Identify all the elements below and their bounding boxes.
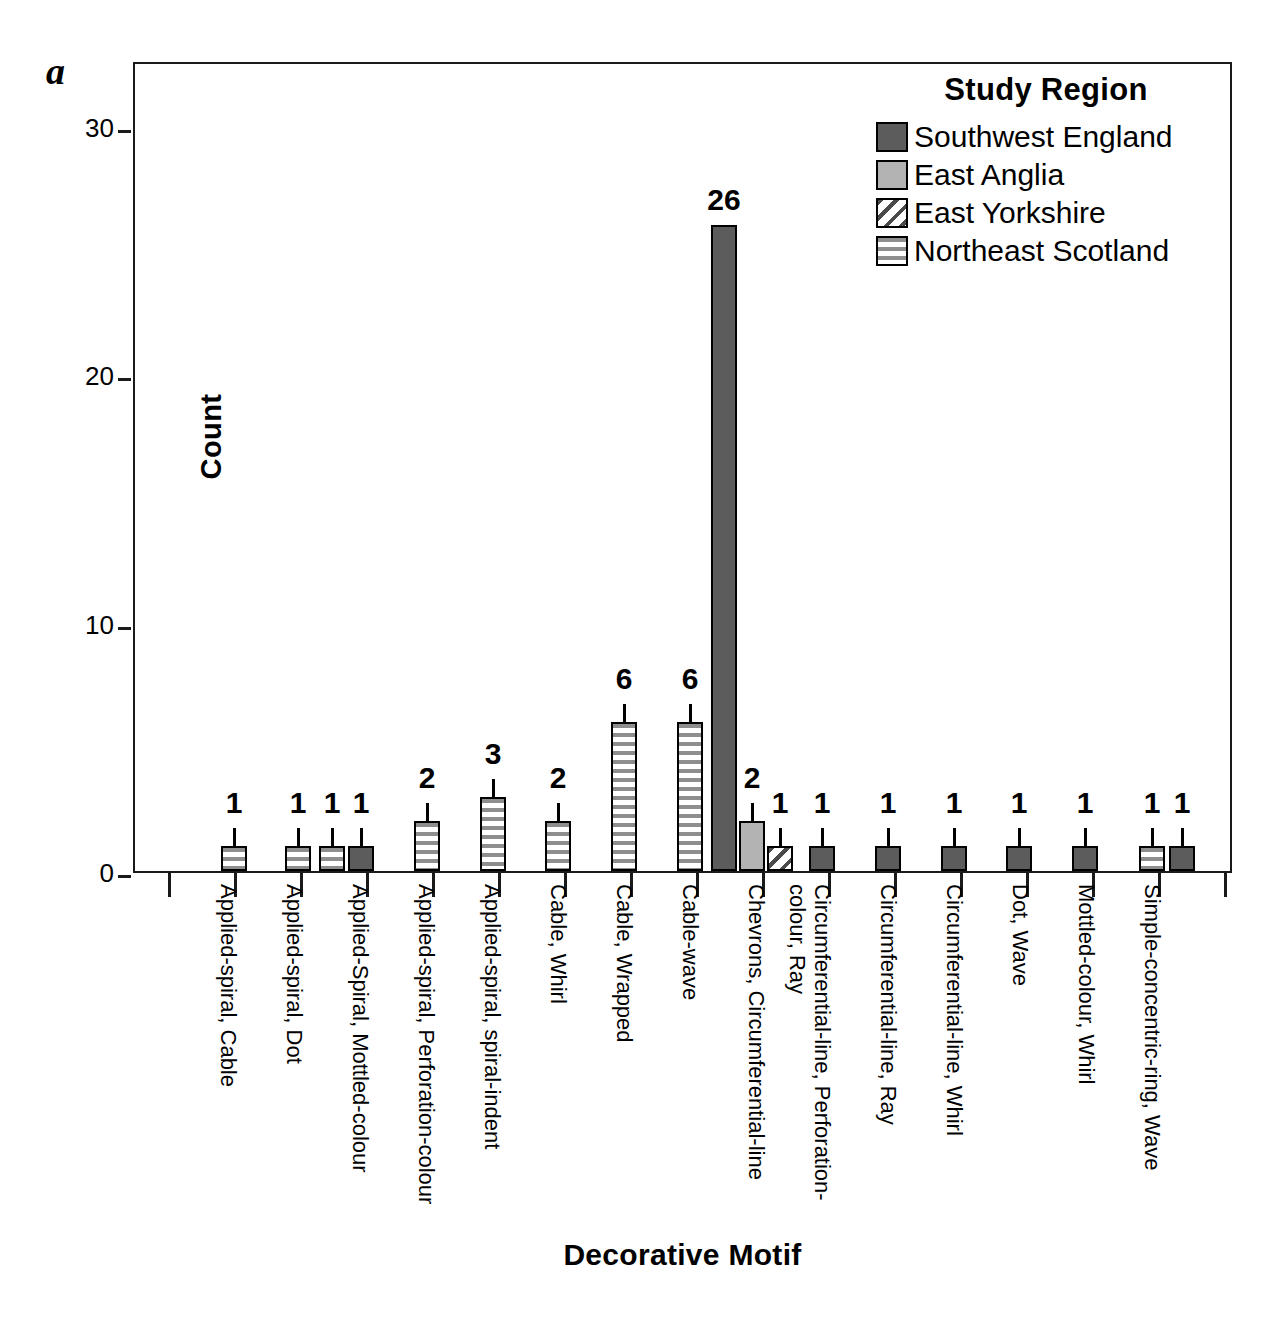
bar-cap-tick xyxy=(1084,828,1087,848)
legend-swatch-icon xyxy=(876,236,908,266)
x-axis-label-3: Applied-spiral, Perforation-colour xyxy=(414,884,439,1204)
bar-cap-tick xyxy=(751,803,754,823)
bar xyxy=(414,821,440,871)
bar-cap-tick xyxy=(623,704,626,724)
bar-value-label: 3 xyxy=(468,737,518,771)
bar xyxy=(221,846,247,871)
bar-cap-tick xyxy=(492,779,495,799)
bar xyxy=(480,797,506,872)
bar-cap-tick xyxy=(1181,828,1184,848)
legend-item-2[interactable]: East Yorkshire xyxy=(876,194,1216,232)
panel-letter: a xyxy=(46,52,65,90)
y-tick-20: 20 xyxy=(91,378,131,379)
x-tick-0 xyxy=(168,871,171,897)
x-axis-label-12: Dot, Wave xyxy=(1008,884,1033,986)
bar xyxy=(739,821,765,871)
y-tick-10: 10 xyxy=(91,627,131,628)
bar xyxy=(1072,846,1098,871)
x-axis-label-10: Circumferential-line, Ray xyxy=(876,884,901,1125)
y-tick-line xyxy=(118,627,131,630)
y-tick-0: 0 xyxy=(91,875,131,876)
bar xyxy=(767,846,793,871)
y-tick-30: 30 xyxy=(91,130,131,131)
x-axis-label-9: Circumferential-line, Perforation- colou… xyxy=(785,884,835,1201)
bar xyxy=(611,722,637,871)
bar-value-label: 1 xyxy=(336,786,386,820)
bar xyxy=(875,846,901,871)
legend-items: Southwest EnglandEast AngliaEast Yorkshi… xyxy=(876,118,1216,270)
bar-cap-tick xyxy=(557,803,560,823)
bar xyxy=(348,846,374,871)
bar-value-label: 6 xyxy=(599,662,649,696)
y-tick-label: 0 xyxy=(100,858,114,889)
legend-swatch-icon xyxy=(876,160,908,190)
x-axis-label-11: Circumferential-line, Whirl xyxy=(942,884,967,1136)
bar-cap-tick xyxy=(953,828,956,848)
bar-cap-tick xyxy=(1018,828,1021,848)
y-tick-label: 30 xyxy=(85,113,114,144)
x-axis-label-0: Applied-spiral, Cable xyxy=(216,884,241,1087)
figure-panel: a Count 0102030 11112326626211111111 Stu… xyxy=(0,0,1280,1334)
bar-cap-tick xyxy=(233,828,236,848)
bar xyxy=(545,821,571,871)
y-tick-label: 10 xyxy=(85,610,114,641)
x-axis-label-7: Cable-wave xyxy=(678,884,703,1000)
legend-item-label: East Anglia xyxy=(914,160,1064,190)
bar-value-label: 26 xyxy=(699,183,749,217)
y-axis-title: Count xyxy=(195,317,228,557)
bar xyxy=(1006,846,1032,871)
bar-value-label: 2 xyxy=(533,761,583,795)
bar-cap-tick xyxy=(297,828,300,848)
legend-item-1[interactable]: East Anglia xyxy=(876,156,1216,194)
x-axis-title: Decorative Motif xyxy=(133,1238,1232,1272)
x-axis-label-13: Mottled-colour, Whirl xyxy=(1074,884,1099,1085)
y-tick-line xyxy=(118,130,131,133)
x-axis-label-4: Applied-spiral, spiral-indent xyxy=(480,884,505,1149)
legend-item-label: Southwest England xyxy=(914,122,1173,152)
bar-cap-tick xyxy=(689,704,692,724)
x-axis-label-5: Cable, Whirl xyxy=(546,884,571,1004)
x-axis-label-1: Applied-spiral, Dot xyxy=(282,884,307,1064)
bar xyxy=(941,846,967,871)
x-axis-label-2: Applied-Spiral, Mottled-colour xyxy=(348,884,373,1173)
bar-cap-tick xyxy=(331,828,334,848)
legend-item-label: Northeast Scotland xyxy=(914,236,1169,266)
bar-value-label: 1 xyxy=(863,786,913,820)
legend-item-3[interactable]: Northeast Scotland xyxy=(876,232,1216,270)
legend-swatch-icon xyxy=(876,122,908,152)
bar-value-label: 1 xyxy=(994,786,1044,820)
legend-item-label: East Yorkshire xyxy=(914,198,1106,228)
bar-cap-tick xyxy=(887,828,890,848)
bar xyxy=(319,846,345,871)
x-axis-label-6: Cable, Wrapped xyxy=(612,884,637,1043)
bar-value-label: 2 xyxy=(402,761,452,795)
bar-value-label: 1 xyxy=(1157,786,1207,820)
bar xyxy=(809,846,835,871)
bar-value-label: 6 xyxy=(665,662,715,696)
legend-swatch-icon xyxy=(876,198,908,228)
bar-value-label: 1 xyxy=(1060,786,1110,820)
x-axis-label-14: Simple-concentric-ring, Wave xyxy=(1140,884,1165,1171)
y-tick-label: 20 xyxy=(85,361,114,392)
bar xyxy=(1169,846,1195,871)
legend-item-0[interactable]: Southwest England xyxy=(876,118,1216,156)
y-tick-line xyxy=(118,378,131,381)
bar-cap-tick xyxy=(1151,828,1154,848)
y-tick-line xyxy=(118,875,131,878)
bar-cap-tick xyxy=(779,828,782,848)
bar-value-label: 1 xyxy=(797,786,847,820)
bar xyxy=(285,846,311,871)
bar-cap-tick xyxy=(360,828,363,848)
bar-value-label: 1 xyxy=(209,786,259,820)
bar xyxy=(1139,846,1165,871)
bar-value-label: 1 xyxy=(929,786,979,820)
x-tick-16 xyxy=(1224,871,1227,897)
legend-title: Study Region xyxy=(876,72,1216,108)
bar-cap-tick xyxy=(821,828,824,848)
bar xyxy=(677,722,703,871)
legend: Study Region Southwest EnglandEast Angli… xyxy=(876,72,1216,270)
x-axis-label-8: Chevrons, Circumferential-line xyxy=(744,884,769,1180)
bar-cap-tick xyxy=(426,803,429,823)
plot-area: Count 0102030 11112326626211111111 Study… xyxy=(133,62,1232,873)
